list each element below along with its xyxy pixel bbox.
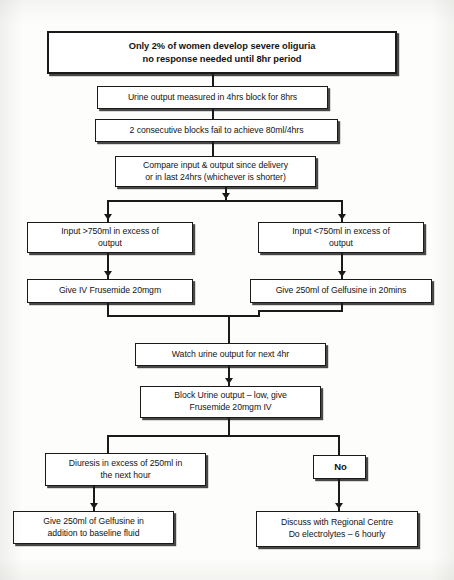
arrowhead-give-iv-frusemide: [104, 271, 112, 277]
arrowhead-input-below-750ml: [338, 214, 346, 220]
node-discuss-regional-centre: Discuss with Regional Centre Do electrol…: [256, 511, 418, 547]
node-consecutive-blocks-fail-label: 2 consecutive blocks fail to achieve 80m…: [100, 125, 333, 137]
node-input-below-750ml: Input <750ml in excess of output: [258, 222, 424, 253]
node-header-line1: Only 2% of women develop severe oliguria: [53, 40, 391, 52]
node-give-iv-frusemide: Give IV Frusemide 20mgm: [27, 279, 193, 303]
node-block-urine-output-low-line1: Block Urine output – low, give: [145, 390, 316, 402]
node-header: Only 2% of women develop severe oliguria…: [47, 31, 397, 74]
edge-fail-to-compare: [212, 142, 214, 156]
edge-measure-to-fail: [212, 109, 214, 119]
node-consecutive-blocks-fail: 2 consecutive blocks fail to achieve 80m…: [95, 119, 338, 142]
node-give-gelfusine-baseline: Give 250ml of Gelfusine in addition to b…: [13, 511, 174, 544]
node-give-gelfusine-baseline-line2: addition to baseline fluid: [18, 528, 169, 540]
node-discuss-regional-centre-line2: Do electrolytes – 6 hourly: [261, 529, 413, 541]
node-block-urine-output-low: Block Urine output – low, give Frusemide…: [140, 386, 321, 418]
node-input-below-750ml-line1: Input <750ml in excess of: [263, 226, 419, 238]
node-watch-urine-output-label: Watch urine output for next 4hr: [140, 349, 321, 361]
node-give-gelfusine-20mins: Give 250ml of Gelfusine in 20mins: [250, 279, 432, 303]
edge-split-lower-right: [338, 435, 340, 455]
node-compare-input-output-line1: Compare input & output since delivery: [120, 160, 311, 172]
node-input-above-750ml-line2: output: [32, 238, 188, 250]
edge-split-lower-left: [107, 435, 109, 453]
node-diuresis-excess-250ml-line1: Diuresis in excess of 250ml in: [50, 458, 201, 470]
node-give-gelfusine-20mins-label: Give 250ml of Gelfusine in 20mins: [255, 285, 427, 297]
arrowhead-discuss-regional-centre: [335, 503, 343, 509]
node-compare-input-output-line2: or in last 24hrs (whichever is shorter): [120, 172, 311, 184]
node-urine-output-measured-label: Urine output measured in 4hrs block for …: [102, 92, 323, 104]
node-block-urine-output-low-line2: Frusemide 20mgm IV: [145, 402, 316, 414]
edge-merge-bar-right: [258, 310, 343, 312]
node-input-above-750ml-line1: Input >750ml in excess of: [32, 226, 188, 238]
node-discuss-regional-centre-line1: Discuss with Regional Centre: [261, 517, 413, 529]
node-give-gelfusine-baseline-line1: Give 250ml of Gelfusine in: [18, 516, 169, 528]
arrowhead-input-above-750ml: [104, 214, 112, 220]
edge-merge-bar: [107, 315, 260, 317]
flowchart-canvas: Only 2% of women develop severe oliguria…: [0, 0, 454, 580]
edge-split-bar-upper: [107, 200, 343, 202]
node-no: No: [313, 455, 366, 479]
node-diuresis-excess-250ml: Diuresis in excess of 250ml in the next …: [45, 453, 206, 486]
node-give-iv-frusemide-label: Give IV Frusemide 20mgm: [32, 285, 188, 297]
node-watch-urine-output: Watch urine output for next 4hr: [135, 343, 326, 366]
edge-header-to-measure: [212, 74, 214, 86]
edge-split-bar-lower: [107, 435, 340, 437]
edge-block-low-stem: [228, 418, 230, 435]
node-input-above-750ml: Input >750ml in excess of output: [27, 222, 193, 253]
node-no-label: No: [320, 461, 361, 474]
arrowhead-compare-stem: [222, 193, 230, 199]
arrowhead-block-urine-output-low: [225, 378, 233, 384]
arrowhead-give-gelfusine-baseline: [90, 503, 98, 509]
node-urine-output-measured: Urine output measured in 4hrs block for …: [97, 86, 328, 109]
edge-merge-to-watch: [228, 315, 230, 343]
node-input-below-750ml-line2: output: [263, 238, 419, 250]
node-diuresis-excess-250ml-line2: the next hour: [50, 470, 201, 482]
arrowhead-give-gelfusine-20mins: [338, 271, 346, 277]
node-compare-input-output: Compare input & output since delivery or…: [115, 156, 316, 187]
node-header-line2: no response needed until 8hr period: [53, 53, 391, 65]
